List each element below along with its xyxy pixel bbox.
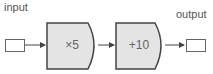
operation-times-5: ×5 [52,38,92,52]
flow-diagram [0,0,213,74]
operation-plus-10: +10 [119,38,159,52]
